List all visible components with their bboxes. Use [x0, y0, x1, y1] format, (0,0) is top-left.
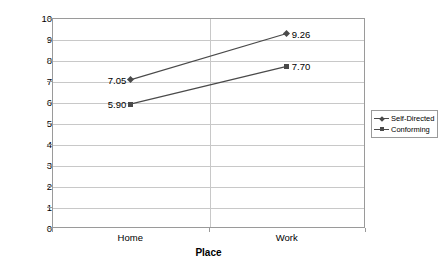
- chart-legend: Self-DirectedConforming: [371, 110, 438, 138]
- legend-label: Conforming: [391, 125, 430, 134]
- y-tick-label: 8: [12, 55, 52, 66]
- plot-area: [52, 18, 365, 228]
- legend-label: Self-Directed: [391, 114, 434, 123]
- data-point-label: 7.70: [292, 61, 311, 72]
- y-tick-label: 0: [12, 223, 52, 234]
- legend-item[interactable]: Self-Directed: [374, 114, 435, 124]
- data-point-marker: [284, 64, 289, 69]
- y-tick-label: 5: [12, 118, 52, 129]
- line-chart-figure: Mean value for engagement composite vari…: [0, 0, 440, 269]
- gridline: [53, 145, 364, 146]
- y-tick-label: 10: [12, 13, 52, 24]
- y-tick-label: 9: [12, 34, 52, 45]
- y-tick-label: 1: [12, 202, 52, 213]
- gridline: [53, 166, 364, 167]
- category-divider: [210, 19, 211, 227]
- y-tick-label: 7: [12, 76, 52, 87]
- data-point-marker: [128, 102, 133, 107]
- x-tick-mark: [52, 228, 53, 232]
- y-tick-label: 6: [12, 97, 52, 108]
- x-axis-title: Place: [52, 247, 365, 258]
- gridline: [53, 61, 364, 62]
- y-axis-ticks: 012345678910: [0, 0, 52, 269]
- data-point-label: 5.90: [100, 99, 126, 110]
- x-tick-label: Home: [90, 232, 170, 243]
- legend-marker-icon: [374, 126, 389, 133]
- x-tick-label: Work: [247, 232, 327, 243]
- data-point-label: 9.26: [292, 28, 311, 39]
- gridline: [53, 187, 364, 188]
- y-tick-label: 4: [12, 139, 52, 150]
- x-tick-mark: [209, 228, 210, 232]
- legend-marker-icon: [374, 115, 389, 122]
- y-tick-label: 2: [12, 181, 52, 192]
- data-point-label: 7.05: [100, 74, 126, 85]
- gridline: [53, 208, 364, 209]
- y-tick-label: 3: [12, 160, 52, 171]
- legend-item[interactable]: Conforming: [374, 124, 435, 134]
- x-tick-mark: [365, 228, 366, 232]
- gridline: [53, 124, 364, 125]
- gridline: [53, 40, 364, 41]
